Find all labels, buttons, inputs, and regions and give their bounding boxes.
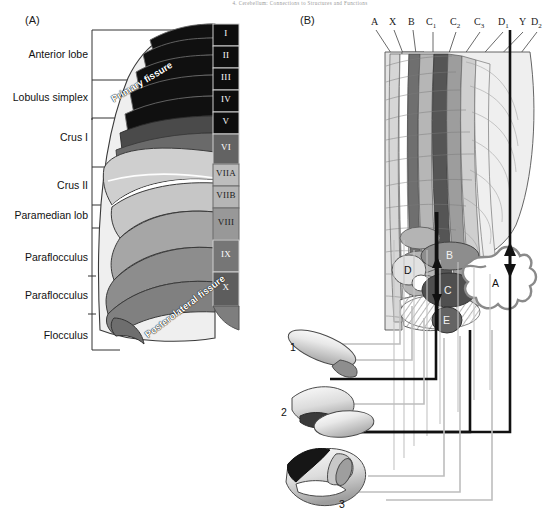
side-label-paramedian-lobule: Paramedian lob (0, 209, 88, 221)
lobule-numeral-v: V (207, 116, 245, 126)
olive-number-3: 3 (339, 498, 345, 510)
zone-label-a: A (371, 16, 378, 27)
olive-subdivision-3 (286, 448, 366, 505)
zone-label-x: X (389, 16, 396, 27)
side-label-paraflocculus-dorsal: Paraflocculus (0, 251, 88, 263)
zone-label-c3: C3 (474, 16, 484, 30)
side-label-lobulus-simplex: Lobulus simplex (0, 91, 88, 103)
lobule-numeral-viia: VIIA (207, 168, 245, 178)
side-label-crus-i: Crus I (0, 131, 88, 143)
lobule-numeral-iii: III (207, 72, 245, 82)
lobule-numeral-iv: IV (207, 94, 245, 104)
nucleus-label-d: D (404, 264, 412, 276)
olive-number-2: 2 (281, 406, 287, 418)
lobule-numeral-vi: VI (207, 142, 245, 152)
side-label-paraflocculus-ventral: Paraflocculus (0, 289, 88, 301)
zone-label-c2: C2 (450, 16, 460, 30)
lobule-numeral-ix: IX (207, 249, 245, 259)
panel-label-b: (B) (300, 14, 315, 26)
figure-canvas: 4. Cerebellum: Connections to Structures… (0, 0, 546, 520)
lobule-numeral-i: I (207, 28, 245, 38)
side-label-crus-ii: Crus II (0, 179, 88, 191)
olive-subdivision-2 (292, 387, 375, 440)
zone-label-c1: C1 (426, 16, 436, 30)
nucleus-label-a: A (492, 277, 499, 289)
lobule-numeral-viii: VIII (207, 217, 245, 227)
lobule-numeral-ii: II (207, 50, 245, 60)
lobule-numeral-viib: VIIB (207, 190, 245, 200)
olive-number-1: 1 (290, 341, 296, 353)
side-label-flocculus: Flocculus (0, 329, 88, 341)
zone-label-d2: D2 (531, 16, 542, 30)
side-label-anterior-lobe: Anterior lobe (0, 48, 88, 60)
nucleus-label-b: B (446, 249, 453, 261)
zone-label-d1: D1 (498, 16, 509, 30)
nucleus-label-c: C (444, 284, 452, 296)
zone-label-b: B (408, 16, 415, 27)
nucleus-label-e: E (443, 314, 450, 326)
zone-label-y: Y (519, 16, 526, 27)
